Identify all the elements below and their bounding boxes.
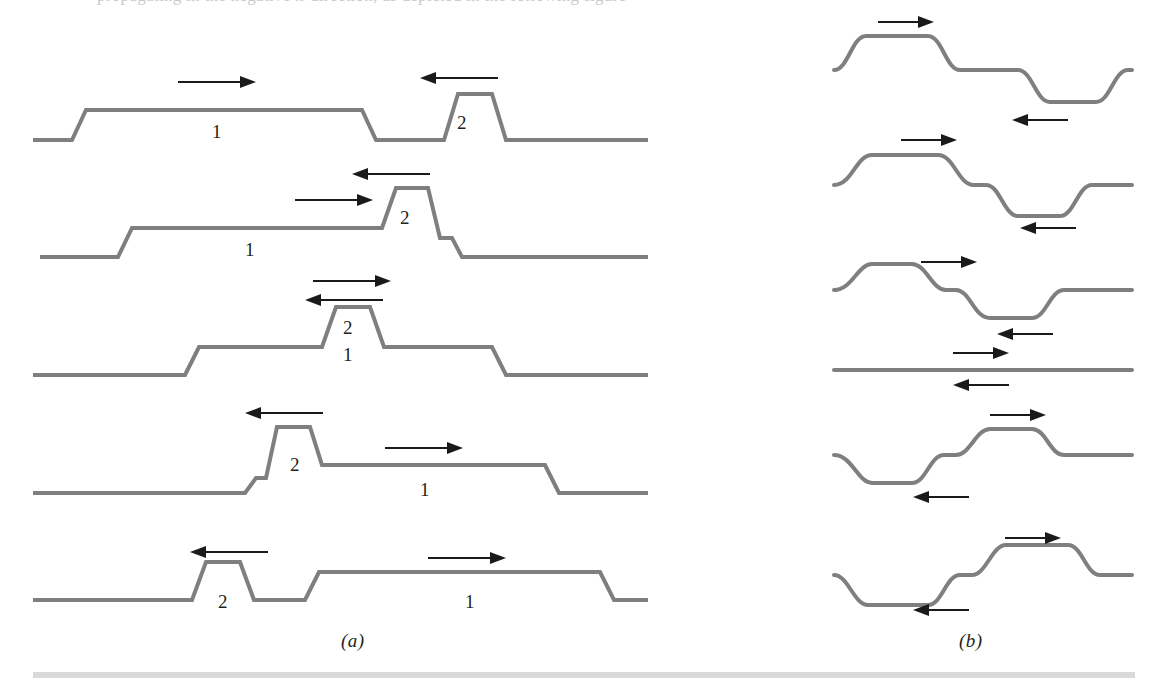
pulse-label-2: 2 [343,318,353,337]
panel-b-row-1-string [834,36,1132,102]
panel-a-waves [33,94,648,600]
arrow-right-icon [313,275,391,287]
arrow-right-icon [901,134,957,146]
wave-drawing-layer [0,0,1165,688]
panel-b-row-6-string [834,545,1132,605]
panel-caption-b: (b) [959,630,983,652]
pulse-label-1: 1 [420,480,430,499]
bottom-divider-rule [33,672,1135,678]
arrow-left-icon [913,491,969,503]
pulse-label-1: 1 [465,592,475,611]
arrow-left-icon [1020,222,1076,234]
panel-a-arrows [178,72,506,564]
arrow-right-icon [428,552,506,564]
panel-b-waves [834,36,1132,605]
pulse-label-2: 2 [400,208,410,227]
panel-a-row-5-string [33,562,648,600]
arrow-right-icon [878,16,934,28]
panel-a-row-3-string [33,307,648,375]
arrow-left-icon [305,294,383,306]
arrow-left-icon [190,546,268,558]
pulse-label-2: 2 [290,455,300,474]
panel-caption-a: (a) [341,630,365,652]
arrow-right-icon [295,194,373,206]
panel-b-arrows [878,16,1076,616]
arrow-left-icon [1012,114,1068,126]
arrow-right-icon [953,347,1009,359]
arrow-right-icon [178,76,256,88]
panel-b-row-3-string [834,264,1132,318]
arrow-right-icon [990,409,1046,421]
arrow-right-icon [921,256,977,268]
pulse-label-1: 1 [343,345,353,364]
pulse-label-1: 1 [245,240,255,259]
pulse-label-1: 1 [212,122,222,141]
panel-a-row-2-string [40,188,648,257]
pulse-label-2: 2 [218,592,228,611]
arrow-right-icon [385,442,463,454]
panel-b-row-2-string [834,155,1132,216]
panel-a-row-1-string [33,94,648,140]
arrow-right-icon [1005,532,1061,544]
wave-superposition-figure: propagating in the negative x-direction,… [0,0,1165,688]
arrow-left-icon [997,328,1053,340]
arrow-left-icon [352,168,430,180]
arrow-left-icon [953,379,1009,391]
pulse-label-2: 2 [457,113,467,132]
panel-a-row-4-string [33,427,648,493]
arrow-left-icon [420,72,498,84]
panel-b-row-5-string [834,429,1132,483]
arrow-left-icon [245,407,323,419]
